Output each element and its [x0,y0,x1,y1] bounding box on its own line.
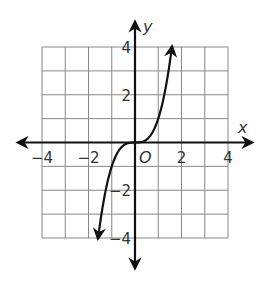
y-tick-label: −4 [109,230,131,248]
y-tick-label: −2 [109,182,131,200]
x-tick-label: −4 [31,149,53,167]
y-axis-label: y [142,17,153,36]
cubic-function-graph: −4−22442−2−4 x y O [0,0,269,281]
axes [18,22,252,268]
y-tick-label: 4 [121,39,131,57]
x-tick-label: 4 [223,149,233,167]
x-tick-label: −2 [77,149,99,167]
origin-label: O [139,148,152,167]
y-tick-label: 2 [121,87,131,105]
x-axis-label: x [237,118,248,137]
x-tick-label: 2 [177,149,187,167]
